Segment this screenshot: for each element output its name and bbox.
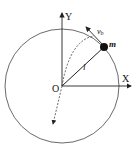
velocity-label: vb [97, 27, 104, 36]
x-axis-label: X [122, 73, 130, 84]
mass-label: m [109, 39, 116, 49]
origin-label: O [52, 83, 59, 94]
mass-m [100, 43, 108, 51]
circular-motion-diagram: Y X O m l vb [0, 0, 139, 153]
y-axis-label: Y [65, 11, 72, 22]
